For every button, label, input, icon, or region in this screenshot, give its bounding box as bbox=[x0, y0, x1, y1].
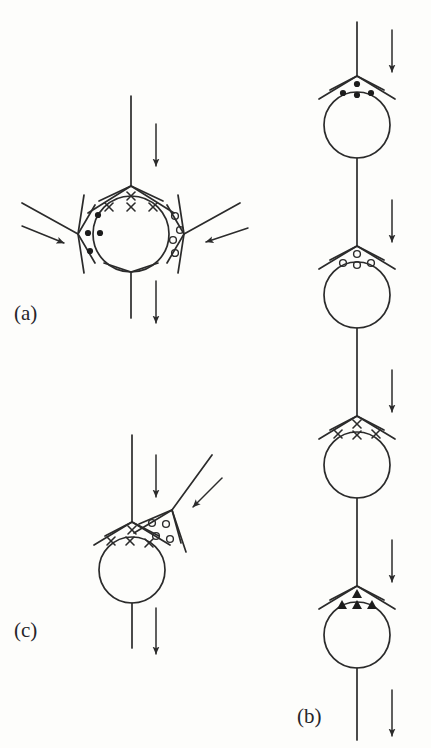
dot-marker bbox=[340, 90, 346, 96]
panel-c bbox=[94, 435, 222, 654]
cross-marker bbox=[128, 526, 136, 534]
panel-a-top-wedge-inner bbox=[99, 186, 163, 201]
triangle-marker bbox=[352, 589, 362, 598]
panel-c-label: (c) bbox=[14, 618, 37, 642]
panel-b-unit-4 bbox=[319, 498, 395, 668]
panel-a-right-channel bbox=[184, 203, 240, 234]
dot-marker bbox=[85, 230, 91, 236]
circle-marker bbox=[167, 536, 174, 543]
circle-marker bbox=[170, 237, 177, 244]
cross-marker bbox=[149, 203, 157, 211]
unit-4-markers bbox=[337, 589, 377, 609]
panel-a-right-flow-arrow bbox=[206, 228, 248, 242]
circle-marker bbox=[163, 521, 170, 528]
dot-marker bbox=[354, 81, 360, 87]
node bbox=[324, 92, 390, 158]
figure-canvas: (a) (b) (c) bbox=[0, 0, 431, 748]
panel-c-node bbox=[99, 537, 165, 603]
cross-marker bbox=[353, 420, 361, 428]
dot-marker bbox=[97, 230, 103, 236]
cross-marker bbox=[126, 537, 134, 545]
panel-b-unit-3 bbox=[319, 328, 395, 498]
dot-marker bbox=[368, 90, 374, 96]
cross-marker bbox=[105, 203, 113, 211]
panel-b-label: (b) bbox=[297, 704, 322, 728]
panel-a-left-flow-arrow bbox=[22, 226, 64, 243]
panel-c-branch-channel bbox=[172, 455, 212, 510]
dot-marker bbox=[354, 92, 360, 98]
node bbox=[324, 262, 390, 328]
panel-b-unit-2 bbox=[319, 158, 395, 328]
cross-marker bbox=[334, 430, 342, 438]
dot-marker bbox=[95, 212, 101, 218]
panel-a bbox=[22, 96, 248, 323]
panel-b-unit-1 bbox=[319, 22, 395, 158]
cross-marker bbox=[372, 430, 380, 438]
panel-a-label: (a) bbox=[14, 301, 37, 325]
diagram-svg: (a) (b) (c) bbox=[0, 0, 431, 748]
node bbox=[324, 432, 390, 498]
panel-c-branch-flow-arrow bbox=[193, 478, 222, 507]
dot-marker bbox=[87, 248, 93, 254]
circle-marker bbox=[354, 251, 361, 258]
cross-marker bbox=[127, 203, 135, 211]
unit-3-markers bbox=[334, 420, 380, 439]
panel-c-branch-wedge-outer bbox=[134, 510, 186, 552]
node bbox=[324, 602, 390, 668]
panel-b bbox=[319, 22, 395, 740]
